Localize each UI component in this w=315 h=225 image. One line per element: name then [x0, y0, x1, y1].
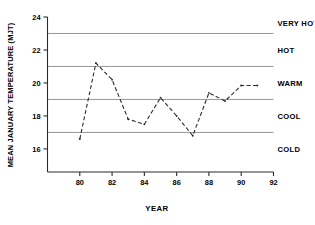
x-tick-label-80: 80 — [76, 178, 84, 187]
data-point-85 — [160, 97, 162, 99]
data-point-82 — [111, 79, 113, 81]
x-tick-label-92: 92 — [269, 178, 277, 187]
x-tick-label-86: 86 — [173, 178, 181, 187]
band-label-cold: COLD — [278, 145, 301, 154]
y-tick-label-16: 16 — [32, 145, 40, 154]
y-tick-label-18: 18 — [32, 112, 40, 121]
data-point-80 — [79, 138, 81, 140]
data-point-90 — [240, 84, 242, 86]
chart-container: 1618202224 80828486889092 VERY HOTHOTWAR… — [0, 0, 314, 225]
band-label-hot: HOT — [278, 46, 295, 55]
band-label-warm: WARM — [278, 79, 303, 88]
data-point-87 — [192, 135, 194, 137]
data-point-89 — [224, 100, 226, 102]
data-point-91 — [256, 84, 258, 86]
x-tick-label-82: 82 — [108, 178, 116, 187]
y-tick-label-20: 20 — [32, 79, 40, 88]
data-point-83 — [127, 118, 129, 120]
y-tick-label-24: 24 — [32, 13, 41, 22]
y-axis-title: MEAN JANUARY TEMPERATURE (MJT) — [6, 22, 15, 167]
band-label-very-hot: VERY HOT — [278, 19, 315, 28]
x-tick-label-88: 88 — [205, 178, 213, 187]
temperature-line-chart: 1618202224 80828486889092 VERY HOTHOTWAR… — [0, 0, 314, 225]
y-tick-label-22: 22 — [32, 46, 40, 55]
band-label-cool: COOL — [278, 112, 301, 121]
data-point-88 — [208, 92, 210, 94]
x-tick-label-84: 84 — [140, 178, 149, 187]
data-point-86 — [176, 115, 178, 117]
data-point-81 — [95, 62, 97, 64]
data-point-84 — [143, 123, 145, 125]
x-tick-label-90: 90 — [237, 178, 245, 187]
x-axis-title: YEAR — [145, 204, 168, 213]
